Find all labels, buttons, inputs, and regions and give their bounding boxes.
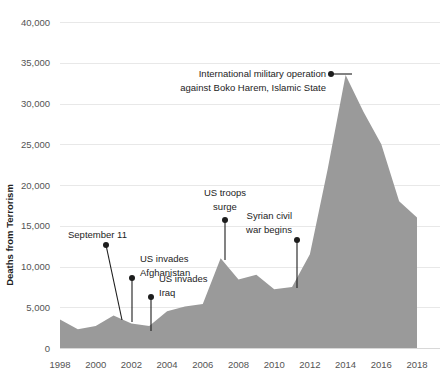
y-tick-label-5000: 5,000 [26, 302, 50, 313]
x-tick-label-1998: 1998 [49, 359, 70, 370]
annotation-marker-dot [294, 237, 300, 243]
chart-container: 05,00010,00015,00020,00025,00030,00035,0… [0, 0, 446, 390]
x-tick-label-2016: 2016 [371, 359, 392, 370]
annotation-label: September 11 [68, 229, 127, 240]
annotation-label: US invadesIraq [159, 273, 208, 298]
x-tick-label-2010: 2010 [264, 359, 285, 370]
y-tick-label-10000: 10,000 [21, 261, 50, 272]
y-tick-label-15000: 15,000 [21, 220, 50, 231]
annotation-september-11: September 11 [68, 229, 127, 320]
annotation-label: International military operationagainst … [180, 68, 326, 93]
x-tick-label-2004: 2004 [157, 359, 178, 370]
annotation-label: Syrian civilwar begins [245, 210, 292, 235]
y-tick-label-30000: 30,000 [21, 98, 50, 109]
annotation-us-troops-surge: US troopssurge [204, 187, 246, 260]
x-tick-label-2018: 2018 [406, 359, 427, 370]
annotation-marker-dot [328, 71, 334, 77]
x-tick-label-2006: 2006 [192, 359, 213, 370]
annotation-international-military-operation: International military operationagainst … [180, 68, 352, 93]
x-tick-label-2008: 2008 [228, 359, 249, 370]
annotation-marker-dot [129, 275, 135, 281]
y-tick-label-20000: 20,000 [21, 180, 50, 191]
deaths-from-terrorism-area-chart: 05,00010,00015,00020,00025,00030,00035,0… [0, 0, 446, 390]
y-tick-label-35000: 35,000 [21, 57, 50, 68]
x-axis-tick-labels: 1998200020022004200620082010201220142016… [49, 359, 427, 370]
y-axis-tick-labels: 05,00010,00015,00020,00025,00030,00035,0… [21, 17, 50, 354]
annotation-label: US troopssurge [204, 187, 246, 212]
y-tick-label-40000: 40,000 [21, 17, 50, 28]
annotation-marker-dot [103, 242, 109, 248]
y-tick-label-25000: 25,000 [21, 139, 50, 150]
area-series-deaths [60, 75, 417, 348]
y-tick-label-0: 0 [45, 343, 50, 354]
annotation-marker-dot [148, 294, 154, 300]
y-axis-title: Deaths from Terrorism [4, 184, 15, 286]
x-tick-label-2000: 2000 [85, 359, 106, 370]
annotation-marker-dot [222, 217, 228, 223]
x-tick-label-2014: 2014 [335, 359, 356, 370]
x-tick-label-2012: 2012 [299, 359, 320, 370]
annotation-leader-line [106, 245, 122, 320]
x-tick-label-2002: 2002 [121, 359, 142, 370]
